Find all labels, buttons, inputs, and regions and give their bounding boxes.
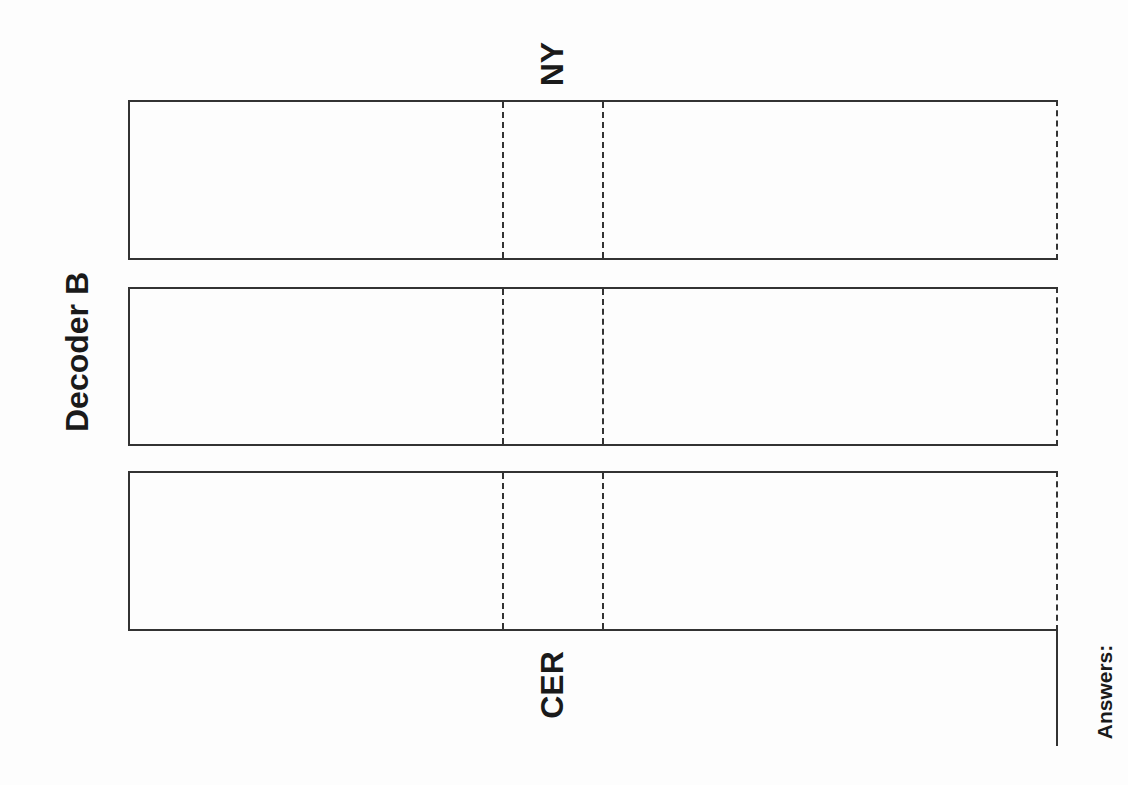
top-column-label: NY	[532, 34, 572, 94]
dashed-divider-right	[602, 289, 604, 444]
dashed-divider-left	[502, 102, 504, 258]
decoder-title: Decoder B	[57, 282, 97, 432]
decoder-strip-1	[128, 100, 1058, 260]
answers-label: Answers:	[1091, 642, 1119, 742]
answer-line	[1056, 629, 1058, 746]
bottom-column-label: CER	[532, 647, 572, 723]
decoder-strip-3	[128, 471, 1058, 631]
dashed-divider-right	[602, 102, 604, 258]
dashed-divider-left	[502, 473, 504, 629]
decoder-strip-2	[128, 287, 1058, 446]
dashed-divider-left	[502, 289, 504, 444]
dashed-divider-right	[602, 473, 604, 629]
